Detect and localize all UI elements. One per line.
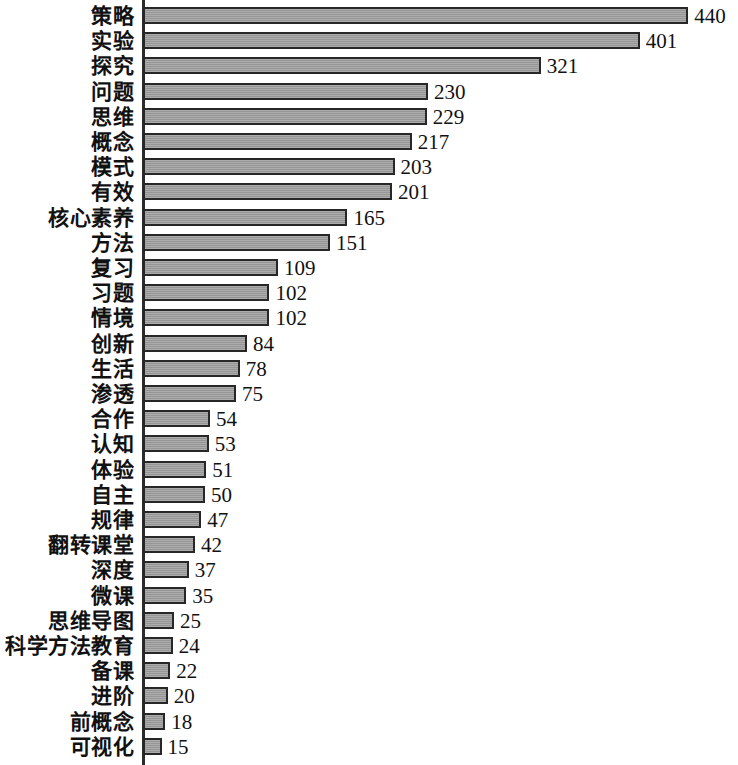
bar-row: 情境102 [0, 305, 738, 331]
category-label: 微课 [91, 583, 134, 609]
bar [143, 183, 392, 200]
bar-value-label: 102 [275, 305, 307, 331]
bar [143, 587, 186, 604]
bar-row: 思维导图25 [0, 608, 738, 634]
bar [143, 561, 189, 578]
category-label: 体验 [91, 457, 134, 483]
category-label: 认知 [91, 431, 134, 457]
category-label: 规律 [91, 507, 134, 533]
bar-value-label: 201 [398, 179, 430, 205]
bar-value-label: 75 [242, 381, 263, 407]
bar-row: 认知53 [0, 431, 738, 457]
bar [143, 637, 173, 654]
bar [143, 713, 165, 730]
bar [143, 7, 688, 24]
category-label: 前概念 [70, 709, 135, 735]
category-label: 生活 [91, 356, 134, 382]
bar-value-label: 78 [246, 356, 267, 382]
bar [143, 486, 205, 503]
bar-value-label: 42 [201, 532, 222, 558]
category-label: 习题 [91, 280, 134, 306]
bar [143, 662, 170, 679]
bar [143, 158, 395, 175]
bar-value-label: 54 [216, 406, 237, 432]
bar [143, 209, 347, 226]
bar-value-label: 165 [353, 205, 385, 231]
bar-row: 创新84 [0, 331, 738, 357]
bar-value-label: 230 [434, 79, 466, 105]
bar [143, 259, 278, 276]
category-label: 概念 [91, 129, 134, 155]
bar [143, 435, 209, 452]
category-label: 复习 [91, 255, 134, 281]
bar-chart: 策略440实验401探究321问题230思维229概念217模式203有效201… [0, 0, 738, 765]
category-label: 核心素养 [48, 205, 134, 231]
bar-row: 自主50 [0, 482, 738, 508]
category-label: 合作 [91, 406, 134, 432]
bar-row: 方法151 [0, 230, 738, 256]
category-label: 思维导图 [48, 608, 134, 634]
bar-value-label: 20 [174, 683, 195, 709]
bar [143, 234, 330, 251]
bar [143, 536, 195, 553]
category-label: 渗透 [91, 381, 134, 407]
category-label: 翻转课堂 [48, 532, 134, 558]
category-label: 可视化 [70, 734, 135, 760]
bar-row: 深度37 [0, 557, 738, 583]
category-label: 探究 [91, 53, 134, 79]
bar-row: 合作54 [0, 406, 738, 432]
bar-row: 前概念18 [0, 709, 738, 735]
category-label: 模式 [91, 154, 134, 180]
bar [143, 57, 541, 74]
bar-value-label: 440 [694, 3, 726, 29]
bar-value-label: 37 [195, 557, 216, 583]
bar-value-label: 203 [401, 154, 433, 180]
bar [143, 385, 236, 402]
bar-row: 策略440 [0, 3, 738, 29]
bar-row: 体验51 [0, 457, 738, 483]
bar-value-label: 18 [171, 709, 192, 735]
bar [143, 738, 162, 755]
category-label: 实验 [91, 28, 134, 54]
bar-value-label: 102 [275, 280, 307, 306]
bar-row: 核心素养165 [0, 205, 738, 231]
category-label: 进阶 [91, 683, 134, 709]
bar-row: 有效201 [0, 179, 738, 205]
bar-row: 可视化15 [0, 734, 738, 760]
bar [143, 32, 640, 49]
bar [143, 133, 412, 150]
category-label: 科学方法教育 [5, 633, 134, 659]
bar-row: 问题230 [0, 79, 738, 105]
bar-value-label: 24 [179, 633, 200, 659]
category-label: 深度 [91, 557, 134, 583]
bar-row: 习题102 [0, 280, 738, 306]
bar [143, 612, 174, 629]
bar-row: 复习109 [0, 255, 738, 281]
bar-row: 生活78 [0, 356, 738, 382]
category-label: 情境 [91, 305, 134, 331]
bar-value-label: 229 [433, 104, 465, 130]
category-label: 问题 [91, 79, 134, 105]
bar-row: 探究321 [0, 53, 738, 79]
bar [143, 83, 428, 100]
bar-value-label: 217 [418, 129, 450, 155]
category-label: 思维 [91, 104, 134, 130]
bar [143, 360, 240, 377]
bar-row: 进阶20 [0, 683, 738, 709]
category-label: 创新 [91, 331, 134, 357]
category-label: 备课 [91, 658, 134, 684]
category-label: 策略 [91, 3, 134, 29]
bar-row: 模式203 [0, 154, 738, 180]
bar-value-label: 35 [192, 583, 213, 609]
bar [143, 309, 269, 326]
bar-value-label: 25 [180, 608, 201, 634]
bar [143, 410, 210, 427]
bar-row: 思维229 [0, 104, 738, 130]
bar-value-label: 15 [168, 734, 189, 760]
bar [143, 461, 206, 478]
bar-value-label: 50 [211, 482, 232, 508]
bar-value-label: 84 [253, 331, 274, 357]
bar-value-label: 22 [176, 658, 197, 684]
bar [143, 284, 269, 301]
category-label: 自主 [91, 482, 134, 508]
